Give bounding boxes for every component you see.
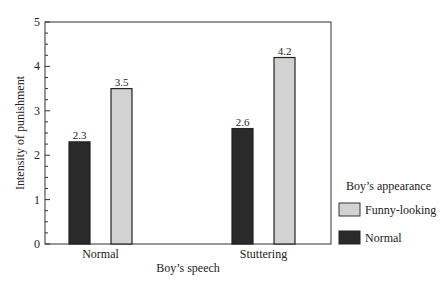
y-axis: 012345: [34, 15, 50, 251]
legend-swatch-funny-looking: [339, 203, 360, 216]
x-category-label: Normal: [82, 247, 119, 261]
y-tick-label: 2: [34, 148, 40, 162]
bar-value-label: 2.6: [236, 116, 250, 128]
legend: Boy’s appearance Funny-looking Normal: [339, 179, 436, 245]
y-tick-label: 5: [34, 15, 40, 29]
legend-swatch-normal: [339, 231, 360, 244]
bar-value-label: 2.3: [73, 129, 87, 141]
legend-label-normal: Normal: [365, 231, 402, 245]
bar-stuttering-funny-looking: [274, 58, 295, 244]
y-tick-label: 1: [34, 193, 40, 207]
y-tick-label: 3: [34, 104, 40, 118]
bar-value-label: 4.2: [278, 45, 292, 57]
x-axis-label: Boy’s speech: [156, 261, 220, 275]
bar-chart: 012345 2.33.52.64.2 NormalStuttering Int…: [0, 0, 445, 290]
y-tick-label: 0: [34, 237, 40, 251]
y-axis-label: Intensity of punishment: [13, 75, 27, 190]
legend-label-funny-looking: Funny-looking: [365, 203, 436, 217]
bars: 2.33.52.64.2: [69, 45, 295, 244]
bar-value-label: 3.5: [115, 76, 129, 88]
x-category-label: Stuttering: [240, 247, 287, 261]
bar-normal-funny-looking: [111, 89, 132, 244]
bar-normal-normal: [69, 142, 90, 244]
bar-stuttering-normal: [232, 129, 253, 244]
y-tick-label: 4: [34, 59, 40, 73]
x-axis: NormalStuttering: [82, 247, 287, 261]
legend-title: Boy’s appearance: [346, 179, 431, 193]
